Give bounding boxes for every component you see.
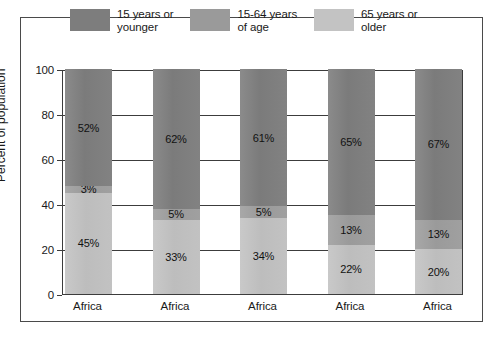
- bar-segment[interactable]: 62%: [153, 69, 200, 209]
- bar-segment[interactable]: 5%: [240, 206, 287, 217]
- legend-label-over-65: 65 years or older: [361, 8, 417, 33]
- legend-item-over-65: 65 years or older: [314, 8, 417, 33]
- legend-label-15-64: 15-64 years of age: [237, 8, 297, 33]
- bar-segment[interactable]: 13%: [328, 215, 375, 244]
- x-axis-tick-label: Africa: [228, 300, 298, 312]
- bar-segment[interactable]: 20%: [415, 249, 462, 294]
- bar-segment[interactable]: 33%: [153, 220, 200, 294]
- bar-segment-label: 20%: [428, 266, 449, 278]
- chart-figure: 15 years or younger 15-64 years of age 6…: [0, 0, 498, 349]
- legend-swatch-over-65: [314, 9, 354, 31]
- chart-legend: 15 years or younger 15-64 years of age 6…: [70, 8, 470, 48]
- y-axis-tick-label: 0: [20, 289, 54, 301]
- x-axis-tick-label: Africa: [53, 300, 123, 312]
- y-axis-tick-label: 80: [20, 109, 54, 121]
- legend-item-under-15: 15 years or younger: [70, 8, 173, 33]
- bar-segment[interactable]: 5%: [153, 209, 200, 220]
- legend-label-under-15: 15 years or younger: [117, 8, 173, 33]
- stacked-bar[interactable]: 52%3%45%: [65, 69, 112, 294]
- bar-segment[interactable]: 65%: [328, 69, 375, 215]
- x-axis-tick-label: Africa: [315, 300, 385, 312]
- bar-segment-label: 3%: [81, 186, 97, 193]
- bar-segment-label: 5%: [168, 209, 184, 220]
- bar-segment-label: 61%: [253, 132, 274, 144]
- legend-swatch-under-15: [70, 9, 110, 31]
- bar-segment[interactable]: 52%: [65, 69, 112, 186]
- stacked-bar[interactable]: 62%5%33%: [153, 69, 200, 294]
- bar-segment-label: 22%: [340, 263, 361, 275]
- bar-segment-label: 45%: [78, 237, 99, 249]
- bar-segment[interactable]: 22%: [328, 245, 375, 295]
- bar-segment-label: 5%: [256, 206, 272, 217]
- y-axis-title: Percent of population: [0, 69, 8, 182]
- bar-segment[interactable]: 34%: [240, 218, 287, 295]
- bar-segment[interactable]: 67%: [415, 69, 462, 220]
- bar-segment[interactable]: 45%: [65, 193, 112, 294]
- legend-item-15-64: 15-64 years of age: [190, 8, 297, 33]
- bar-segment-label: 13%: [340, 224, 361, 236]
- bar-segment-label: 52%: [78, 122, 99, 134]
- y-axis-tick-label: 40: [20, 199, 54, 211]
- x-axis-tick-label: Africa: [140, 300, 210, 312]
- legend-swatch-15-64: [190, 9, 230, 31]
- bar-segment-label: 13%: [428, 228, 449, 240]
- bar-segment[interactable]: 61%: [240, 69, 287, 206]
- bar-segment-label: 62%: [165, 133, 186, 145]
- bar-segment-label: 67%: [428, 138, 449, 150]
- bar-segment-label: 65%: [340, 136, 361, 148]
- y-axis-tick-label: 60: [20, 154, 54, 166]
- x-axis-tick-label: Africa: [403, 300, 473, 312]
- plot-area: 52%3%45%62%5%33%61%5%34%65%13%22%67%13%2…: [62, 70, 463, 295]
- bar-segment-label: 34%: [253, 250, 274, 262]
- bar-segment-label: 33%: [165, 251, 186, 263]
- stacked-bar[interactable]: 65%13%22%: [328, 69, 375, 294]
- y-axis-tick-label: 20: [20, 244, 54, 256]
- bar-segment[interactable]: 13%: [415, 220, 462, 249]
- bar-segment[interactable]: 3%: [65, 186, 112, 193]
- stacked-bar[interactable]: 61%5%34%: [240, 69, 287, 294]
- stacked-bar[interactable]: 67%13%20%: [415, 69, 462, 294]
- y-axis-tick-label: 100: [20, 64, 54, 76]
